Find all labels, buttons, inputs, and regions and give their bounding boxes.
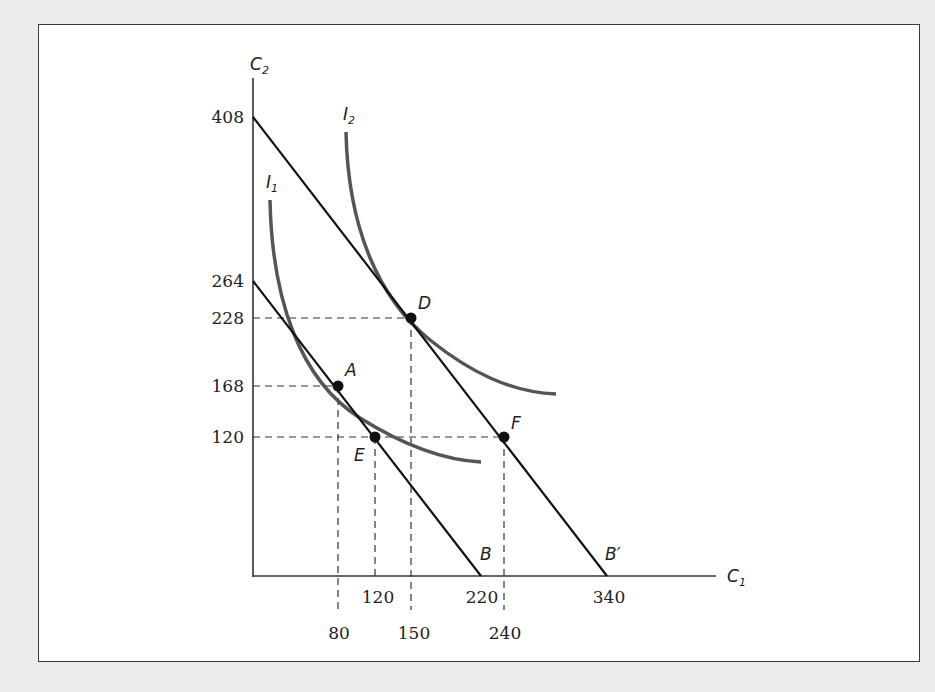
indifference-curve-i2 xyxy=(346,132,556,394)
budget-line-b-prime xyxy=(253,117,607,576)
point-e xyxy=(370,432,381,443)
x-tick-80: 80 xyxy=(328,623,350,643)
x-tick-240: 240 xyxy=(489,623,521,643)
y-tick-228: 228 xyxy=(212,308,244,328)
y-tick-408: 408 xyxy=(212,107,244,127)
point-f xyxy=(499,432,510,443)
x-tick-340: 340 xyxy=(593,587,625,607)
x-tick-220: 220 xyxy=(466,587,498,607)
y-tick-120: 120 xyxy=(212,427,244,447)
point-f-label: F xyxy=(511,413,521,433)
y-tick-264: 264 xyxy=(212,271,244,291)
indifference-curve-i1 xyxy=(270,200,481,462)
point-d-label: D xyxy=(418,293,431,313)
x-axis-label: C1 xyxy=(727,566,746,589)
point-a xyxy=(333,381,344,392)
point-e-label: E xyxy=(354,445,365,465)
curve-i1-label: I1 xyxy=(266,172,278,195)
budget-line-b xyxy=(253,281,481,576)
x-tick-150: 150 xyxy=(398,623,430,643)
y-tick-168: 168 xyxy=(212,376,244,396)
point-d xyxy=(406,313,417,324)
curve-i2-label: I2 xyxy=(343,104,355,127)
chart-canvas: A E D F B B′ I1 I2 C2 C1 408 264 228 168… xyxy=(0,0,935,692)
budget-line-b-label: B xyxy=(480,544,492,564)
guide-lines xyxy=(253,318,504,610)
point-a-label: A xyxy=(344,360,357,380)
budget-line-b-prime-label: B′ xyxy=(605,544,621,564)
y-axis-label: C2 xyxy=(250,54,269,77)
x-tick-120: 120 xyxy=(362,587,394,607)
